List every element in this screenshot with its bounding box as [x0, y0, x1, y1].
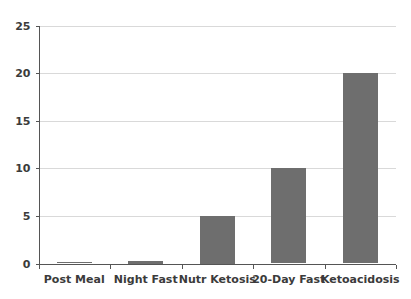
y-axis-tick-label: 10 [15, 162, 31, 175]
y-axis-tick-label: 15 [15, 115, 30, 128]
bar [343, 73, 378, 263]
bar-chart: 0510152025 Post MealNight FastNutr Ketos… [0, 0, 411, 299]
y-axis-tick-label: 20 [15, 67, 31, 80]
chart-canvas: 0510152025 Post MealNight FastNutr Ketos… [0, 0, 411, 299]
x-axis-category-label: Post Meal [44, 273, 105, 286]
bar [200, 216, 235, 264]
x-axis-category-label: Nutr Ketosis [179, 273, 256, 286]
y-axis-tick-label: 5 [23, 210, 31, 223]
bar [271, 168, 306, 263]
y-axis-tick-label: 25 [15, 20, 30, 33]
bar [128, 261, 163, 264]
x-axis-category-label: 20-Day Fast [252, 273, 325, 286]
y-axis-tick-label: 0 [23, 258, 31, 271]
bar [57, 262, 92, 263]
x-axis-category-labels: Post MealNight FastNutr Ketosis20-Day Fa… [44, 273, 400, 286]
x-axis-category-label: Ketoacidosis [321, 273, 400, 286]
x-axis-category-label: Night Fast [114, 273, 178, 286]
